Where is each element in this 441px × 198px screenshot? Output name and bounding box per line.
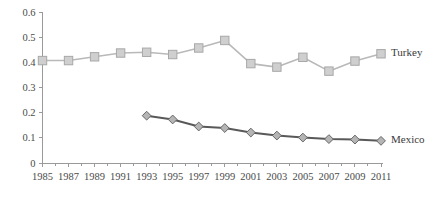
x-axis: 1985198719891991199319951997199920012003…	[32, 163, 391, 182]
data-point-marker	[90, 53, 98, 61]
y-axis: 00.10.20.30.40.50.6	[22, 7, 42, 169]
data-point-marker	[377, 50, 385, 58]
data-point-marker	[64, 56, 72, 64]
data-point-marker	[247, 59, 255, 67]
data-point-marker	[116, 49, 124, 57]
data-point-marker	[38, 56, 46, 64]
series-label-mexico: Mexico	[391, 133, 425, 145]
series-turkey	[38, 36, 385, 75]
x-axis-tick-label: 2005	[292, 171, 313, 182]
y-axis-tick-label: 0.3	[22, 82, 35, 93]
data-point-marker	[142, 111, 151, 120]
x-axis-tick-label: 1997	[188, 171, 209, 182]
x-axis-tick-label: 2007	[318, 171, 339, 182]
series-labels: TurkeyMexico	[391, 46, 425, 145]
data-point-marker	[272, 131, 281, 140]
series-label-turkey: Turkey	[391, 46, 423, 58]
x-axis-tick-label: 1995	[162, 171, 183, 182]
x-axis-tick-label: 2003	[266, 171, 287, 182]
x-axis-tick-label: 1987	[58, 171, 79, 182]
y-axis-tick-label: 0	[30, 158, 35, 169]
x-axis-tick-label: 2001	[240, 171, 261, 182]
data-point-marker	[351, 135, 360, 144]
y-axis-tick-label: 0.5	[22, 32, 35, 43]
data-point-marker	[273, 63, 281, 71]
y-axis-tick-label: 0.6	[22, 7, 35, 18]
y-axis-tick-label: 0.4	[22, 57, 36, 68]
chart-plot-area: 00.10.20.30.40.50.6 19851987198919911993…	[0, 0, 441, 198]
x-axis-tick-label: 2011	[371, 171, 392, 182]
line-chart: 00.10.20.30.40.50.6 19851987198919911993…	[0, 0, 441, 198]
data-point-marker	[299, 53, 307, 61]
data-point-marker	[351, 57, 359, 65]
x-axis-tick-label: 1999	[214, 171, 235, 182]
y-axis-tick-label: 0.1	[22, 132, 35, 143]
data-point-marker	[298, 133, 307, 142]
series-mexico	[142, 111, 385, 145]
x-axis-tick-label: 1993	[136, 171, 157, 182]
data-point-marker	[325, 67, 333, 75]
data-point-marker	[142, 48, 150, 56]
data-point-marker	[377, 136, 386, 145]
data-point-marker	[195, 44, 203, 52]
data-point-marker	[194, 122, 203, 131]
data-point-marker	[168, 115, 177, 124]
data-point-marker	[325, 135, 334, 144]
x-axis-tick-label: 1985	[32, 171, 53, 182]
data-point-marker	[220, 124, 229, 133]
data-point-marker	[168, 50, 176, 58]
series-layer	[38, 36, 385, 145]
data-point-marker	[221, 36, 229, 44]
x-axis-tick-label: 2009	[344, 171, 365, 182]
x-axis-tick-label: 1989	[84, 171, 105, 182]
y-axis-tick-label: 0.2	[22, 107, 35, 118]
x-axis-tick-label: 1991	[110, 171, 131, 182]
data-point-marker	[246, 128, 255, 137]
